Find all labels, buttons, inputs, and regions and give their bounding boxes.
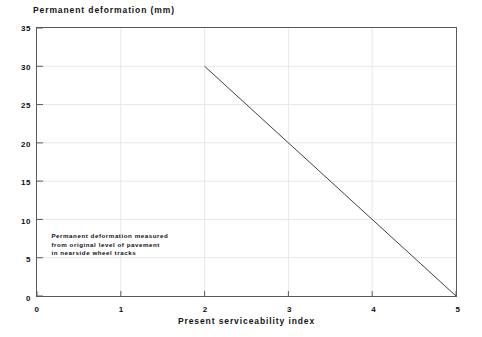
data-line-0 bbox=[205, 66, 456, 296]
y-tick-label-15: 15 bbox=[21, 178, 31, 187]
x-tick-label-4: 4 bbox=[371, 305, 376, 314]
chart-figure: Permanent deformation (mm) Permanent def… bbox=[0, 0, 482, 337]
measurement-note-line-3: in nearside wheel tracks bbox=[51, 249, 168, 257]
y-tick-label-5: 5 bbox=[26, 255, 31, 264]
y-tick-label-10: 10 bbox=[21, 216, 31, 225]
y-tick-label-20: 20 bbox=[21, 139, 31, 148]
chart-title: Permanent deformation (mm) bbox=[33, 5, 175, 15]
x-tick-label-0: 0 bbox=[34, 305, 39, 314]
y-tick-label-0: 0 bbox=[26, 294, 31, 303]
x-tick-label-2: 2 bbox=[203, 305, 208, 314]
measurement-note-annotation: Permanent deformation measured from orig… bbox=[51, 232, 168, 257]
x-axis-title: Present serviceability index bbox=[36, 316, 457, 326]
x-tick-label-3: 3 bbox=[287, 305, 292, 314]
y-tick-label-25: 25 bbox=[21, 101, 31, 110]
y-tick-label-35: 35 bbox=[21, 24, 31, 33]
measurement-note-line-1: Permanent deformation measured bbox=[51, 232, 168, 240]
measurement-note-line-2: from original level of pavement bbox=[51, 241, 168, 249]
plot-area: Permanent deformation measured from orig… bbox=[36, 27, 457, 297]
x-tick-label-1: 1 bbox=[119, 305, 124, 314]
x-tick-label-5: 5 bbox=[455, 305, 460, 314]
y-tick-label-30: 30 bbox=[21, 62, 31, 71]
